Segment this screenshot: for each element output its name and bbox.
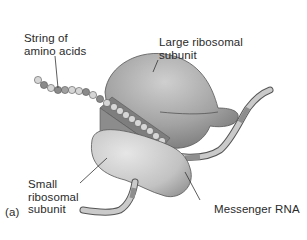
label-amino-acids: String of amino acids bbox=[24, 32, 86, 57]
messenger-rna-tail bbox=[83, 182, 135, 212]
panel-label: (a) bbox=[5, 206, 19, 219]
leader-amino-acids bbox=[55, 56, 58, 88]
label-large-subunit: Large ribosomal subunit bbox=[159, 36, 243, 61]
label-messenger-rna: Messenger RNA bbox=[214, 203, 300, 216]
label-small-subunit: Small ribosomal subunit bbox=[28, 178, 79, 216]
